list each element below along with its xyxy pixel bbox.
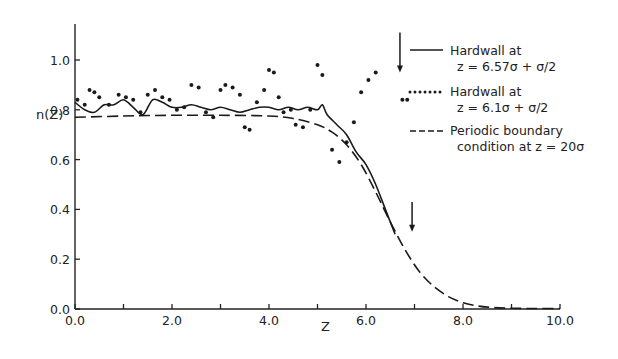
legend-dotted-line2: z = 6.1σ + σ/2 [457,100,548,115]
data-point [153,88,157,92]
data-point [352,120,356,124]
legend-dashed-line2: condition at z = 20σ [457,139,584,154]
legend-dashed-line1: Periodic boundary [450,123,563,138]
legend-dotted-line1: Hardwall at [450,84,521,99]
x-tick-label: 4.0 [259,313,279,328]
x-axis-label: Z [321,319,330,334]
data-point [238,93,242,97]
density-profile-chart: 0.00.20.40.60.81.0 0.02.04.06.08.010.0 n… [0,0,618,359]
data-point [277,95,281,99]
data-point [138,110,142,114]
down-arrow-icon [397,33,403,73]
data-point [255,100,259,104]
data-point [282,110,286,114]
data-point [405,98,409,102]
data-point [131,98,135,102]
data-point [92,90,96,94]
data-point [272,70,276,74]
x-tick-label: 0.0 [65,313,85,328]
data-point [316,63,320,67]
x-tick-label: 8.0 [453,313,473,328]
series-hardwall-6-57 [75,99,395,234]
down-arrow-icon [409,202,415,232]
data-point [248,128,252,132]
data-point [337,160,341,164]
data-point [146,93,150,97]
legend-solid-line1: Hardwall at [450,43,521,58]
y-axis-label: n(Z) [36,107,63,122]
legend-item-dashed: Periodic boundary condition at z = 20σ [410,123,584,154]
data-point [366,78,370,82]
data-point [308,108,312,112]
data-point [330,148,334,152]
data-point [204,110,208,114]
data-point [294,123,298,127]
y-tick-label: 1.0 [50,53,70,68]
data-point [197,85,201,89]
data-point [75,98,79,102]
annotations [397,33,415,232]
data-point [345,140,349,144]
data-point [124,95,128,99]
data-point [211,115,215,119]
legend-item-dotted: Hardwall at z = 6.1σ + σ/2 [409,84,549,115]
data-point [231,85,235,89]
data-point [359,90,363,94]
legend: Hardwall at z = 6.57σ + σ/2 Hardwall at … [409,43,585,154]
data-point [262,88,266,92]
data-point [189,83,193,87]
data-point [107,103,111,107]
data-point [374,70,378,74]
data-point [160,95,164,99]
y-tick-label: 0.6 [50,153,70,168]
data-point [97,95,101,99]
y-tick-label: 0.4 [50,202,70,217]
data-point [117,93,121,97]
data-point [83,103,87,107]
data-point [175,108,179,112]
x-tick-label: 10.0 [546,313,574,328]
data-point [243,125,247,129]
x-tick-label: 6.0 [356,313,376,328]
data-point [301,125,305,129]
data-point [88,88,92,92]
data-point [320,73,324,77]
y-tick-label: 0.2 [50,252,70,267]
data-point [223,83,227,87]
legend-item-solid: Hardwall at z = 6.57σ + σ/2 [410,43,556,74]
data-point [267,68,271,72]
data-point [289,108,293,112]
data-point [168,98,172,102]
data-point [182,105,186,109]
data-point [219,88,223,92]
data-point [400,98,404,102]
legend-dotted-line-icon [409,91,442,94]
series-hardwall-6-1 [75,63,409,164]
legend-solid-line2: z = 6.57σ + σ/2 [457,59,556,74]
x-tick-label: 2.0 [162,313,182,328]
